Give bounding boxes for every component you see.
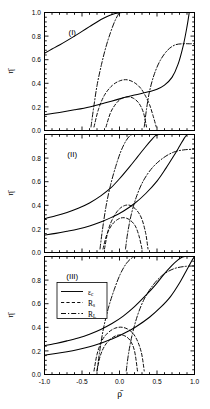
curve-dashdot [100,134,135,248]
panel-1: 0.00.20.40.60.81.0(I)η̄ [5,9,195,134]
multi-panel-plot: 0.00.20.40.60.81.0(I)η̄0.00.20.40.60.8(I… [0,0,210,409]
x-axis-label: ρ̄ [117,389,124,399]
y-axis-label: η̄ [5,189,15,196]
curve-dashdot [144,44,194,127]
x-tick-label: 0.5 [152,378,161,385]
y-tick-label: 0.4 [32,80,41,87]
y-tick-label: 0.2 [32,104,41,111]
panels-group: 0.00.20.40.60.81.0(I)η̄0.00.20.40.60.8(I… [5,9,199,398]
y-axis-label: η̄ [5,311,15,318]
curves [45,12,195,127]
panel-label: (II) [67,150,77,159]
x-tick-label: -0.5 [76,378,88,385]
curve-solid [45,13,190,115]
y-tick-label: 0.0 [32,127,41,134]
curve-solid [45,135,159,219]
y-tick-label: 0.6 [32,178,41,185]
y-tick-label: 0.0 [32,249,41,256]
x-tick-label: 0.0 [115,378,124,385]
y-tick-label: 0.4 [32,324,41,331]
y-axis-label: η̄ [5,67,15,74]
panel-label: (III) [66,272,78,281]
panel-2: 0.00.20.40.60.8(II)η̄ [5,134,195,256]
y-tick-label: 0.8 [32,155,41,162]
y-tick-label: 0.2 [32,226,41,233]
figure-container: 0.00.20.40.60.81.0(I)η̄0.00.20.40.60.8(I… [0,0,210,409]
curve-dashdot [126,149,195,249]
plot-frame [45,13,195,131]
y-tick-label: 0.8 [32,277,41,284]
legend: εcRsRL [57,283,107,320]
curve-dashdot [91,12,123,127]
curve-solid [45,135,188,236]
x-tick-label: -1.0 [39,378,51,385]
y-tick-label: 0.8 [32,33,41,40]
y-tick-label: 0.6 [32,56,41,63]
curve-solid [45,13,124,54]
curve-dashed [103,218,142,249]
x-tick-label: 1.0 [190,378,199,385]
y-tick-label: 0.4 [32,202,41,209]
curve-dashdot [126,266,194,371]
y-tick-label: 0.6 [32,300,41,307]
y-tick-label: 0.2 [32,348,41,355]
x-axis-labels: -1.0-0.50.00.51.0ρ̄ [39,378,200,399]
y-tick-label: 1.0 [32,9,41,16]
